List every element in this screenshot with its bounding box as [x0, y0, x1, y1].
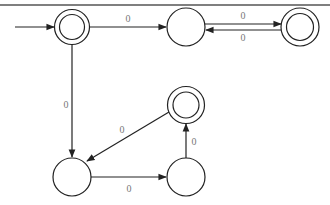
automaton-diagram: 0 0 0 0 0 0 0	[0, 0, 330, 205]
label-q2-q1: 0	[241, 32, 246, 43]
state-q4	[53, 158, 91, 196]
state-q0	[55, 10, 90, 45]
state-q5	[167, 158, 205, 196]
state-q3	[168, 87, 205, 124]
transition-q3-q4	[87, 112, 169, 161]
label-q0-q4: 0	[64, 99, 69, 110]
state-q1	[167, 8, 205, 46]
label-q0-q1: 0	[126, 13, 131, 24]
label-q3-q4: 0	[120, 124, 125, 135]
state-q2	[281, 8, 319, 46]
label-q1-q2: 0	[241, 10, 246, 21]
label-q5-q3: 0	[192, 136, 197, 147]
label-q4-q5: 0	[127, 183, 132, 194]
